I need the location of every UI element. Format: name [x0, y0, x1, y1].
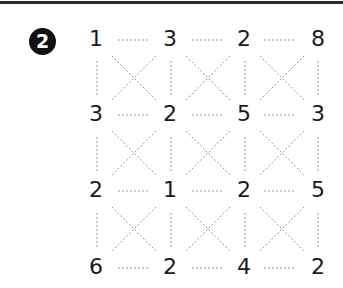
grid-cell-r1c2: 5	[229, 101, 259, 127]
grid-cell-r2c1: 1	[155, 177, 185, 203]
grid-cell-r1c1: 2	[155, 101, 185, 127]
grid-cell-r3c1: 2	[155, 254, 185, 280]
grid-cell-r3c3: 2	[303, 254, 333, 280]
grid-cell-r0c3: 8	[303, 26, 333, 52]
grid-cell-r3c0: 6	[81, 254, 111, 280]
grid-cell-r2c0: 2	[81, 177, 111, 203]
grid-cell-r2c2: 2	[229, 177, 259, 203]
grid-cell-r2c3: 5	[303, 177, 333, 203]
grid-cell-r1c3: 3	[303, 101, 333, 127]
grid-cell-r1c0: 3	[81, 101, 111, 127]
grid-cell-r0c0: 1	[81, 26, 111, 52]
grid-cell-r3c2: 4	[229, 254, 259, 280]
grid-cell-r0c2: 2	[229, 26, 259, 52]
grid-cell-r0c1: 3	[155, 26, 185, 52]
